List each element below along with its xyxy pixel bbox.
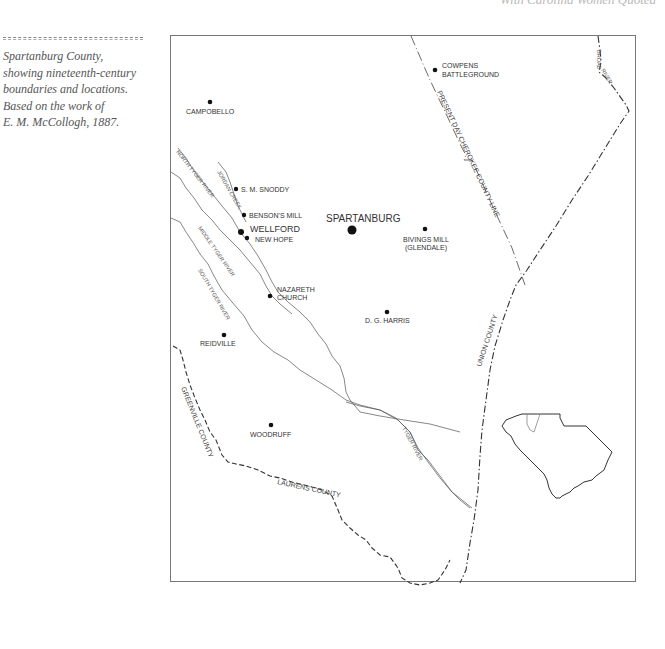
place-wellford: WELLFORD [238, 224, 301, 235]
union-county-label: UNION COUNTY [475, 313, 498, 367]
south-tyger-river [171, 218, 470, 508]
place-dot-icon [268, 294, 273, 299]
spartanburg-county-inset [527, 414, 540, 432]
place-reidville: REIDVILLE [200, 333, 236, 347]
place-new-hope: NEW HOPE [245, 236, 294, 243]
river-labels: NORTH TYGER RIVER JORDAN CREEK MIDDLE TY… [175, 149, 424, 461]
tyger-river [346, 402, 472, 508]
place-dot-icon [348, 226, 357, 235]
place-label: BIVINGS MILL [403, 236, 449, 243]
south-tyger-river-label: SOUTH TYGER RIVER [197, 268, 231, 321]
place-label: S. M. SNODDY [241, 186, 290, 193]
place-label: CAMPOBELLO [186, 108, 235, 115]
place-label: REIDVILLE [200, 340, 236, 347]
broad-river-label: BROAD [596, 50, 602, 70]
place-bensons-mill: BENSON'S MILL [242, 212, 302, 219]
southwest-county-boundary: GREENVILLE COUNTY LAURENS COUNTY [173, 346, 450, 585]
rivers [171, 148, 472, 508]
place-sm-snoddy: S. M. SNODDY [234, 186, 290, 193]
place-label: BENSON'S MILL [249, 212, 302, 219]
place-label: SPARTANBURG [326, 213, 401, 224]
south-carolina-inset-icon [502, 414, 612, 498]
place-dot-icon [423, 227, 428, 232]
north-tyger-river-label: NORTH TYGER RIVER [175, 149, 216, 199]
place-dot-icon [222, 333, 227, 338]
place-label: D. G. HARRIS [365, 317, 410, 324]
place-dot-icon [208, 100, 213, 105]
north-tyger-river [178, 148, 460, 432]
place-bivings-mill: BIVINGS MILL (GLENDALE) [403, 227, 449, 252]
east-county-boundary: BROAD RIVER UNION COUNTY [460, 36, 629, 583]
place-label: WOODRUFF [250, 431, 291, 438]
place-woodruff: WOODRUFF [250, 423, 291, 438]
greenville-county-label: GREENVILLE COUNTY [180, 386, 215, 459]
tyger-river-label: TYGER RIVER [401, 426, 424, 462]
place-cowpens-battleground: COWPENS BATTLEGROUND [433, 62, 499, 78]
place-campobello: CAMPOBELLO [186, 100, 235, 115]
place-label-2: (GLENDALE) [405, 244, 447, 252]
place-label: COWPENS [442, 62, 479, 69]
laurens-county-label: LAURENS COUNTY [277, 478, 342, 498]
place-dot-icon [238, 229, 244, 235]
cherokee-line-label: PRESENT DAY CHEROKEE COUNTY LINE [436, 89, 501, 218]
place-dot-icon [385, 310, 390, 315]
place-dot-icon [234, 187, 238, 191]
place-dg-harris: D. G. HARRIS [365, 310, 410, 324]
place-label: NEW HOPE [255, 236, 293, 243]
place-spartanburg: SPARTANBURG [326, 213, 401, 235]
place-dot-icon [245, 236, 249, 240]
place-dot-icon [269, 423, 274, 428]
place-dot-icon [242, 213, 246, 217]
place-label-2: CHURCH [277, 294, 307, 301]
broad-river-label-2: RIVER [600, 68, 614, 86]
place-label-2: BATTLEGROUND [442, 71, 499, 78]
county-map: PRESENT DAY CHEROKEE COUNTY LINE BROAD R… [0, 0, 665, 649]
place-label: NAZARETH [277, 286, 315, 293]
place-label: WELLFORD [250, 224, 301, 234]
place-dot-icon [433, 68, 438, 73]
